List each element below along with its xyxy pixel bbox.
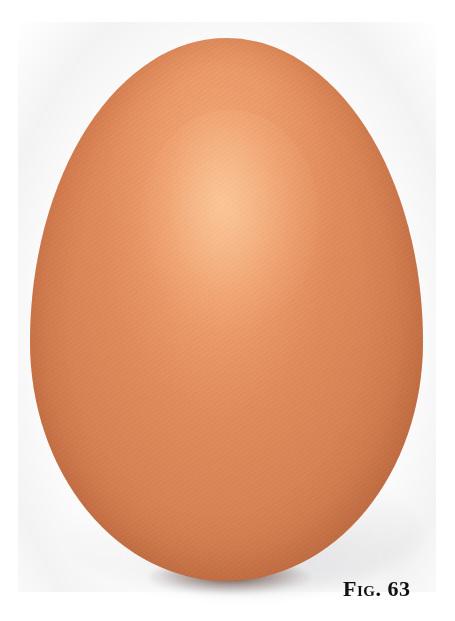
egg-highlight	[140, 110, 320, 330]
figure-caption: Fig. 63	[343, 576, 410, 602]
